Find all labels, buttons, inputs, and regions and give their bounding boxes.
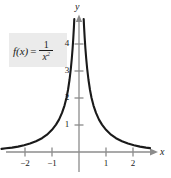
y-axis <box>76 15 82 173</box>
x-axis-label: x <box>160 146 164 157</box>
function-formula-label: f(x) = 1 x2 <box>13 40 53 62</box>
y-tick-label-2: 2 <box>62 92 72 102</box>
formula-equals: = <box>30 46 36 57</box>
curve-right-branch <box>84 19 150 148</box>
y-tick-label-4: 4 <box>62 38 72 48</box>
formula-fraction: 1 x2 <box>39 40 52 62</box>
formula-denominator-exponent: 2 <box>47 51 50 57</box>
function-graph-figure: f(x) = 1 x2 x y −2 −1 1 2 1 2 3 4 <box>0 0 171 178</box>
formula-lhs: f(x) <box>13 46 28 57</box>
x-axis <box>6 149 158 156</box>
formula-numerator: 1 <box>41 40 52 50</box>
y-tick-label-1: 1 <box>62 119 72 129</box>
formula-denominator: x2 <box>39 51 52 62</box>
x-tick-label-1: 1 <box>100 158 112 168</box>
plot-canvas <box>0 0 171 178</box>
y-axis-label: y <box>75 1 79 12</box>
x-tick-label-neg2: −2 <box>17 158 33 168</box>
y-tick-label-3: 3 <box>62 65 72 75</box>
x-tick-label-neg1: −1 <box>44 158 60 168</box>
x-tick-label-2: 2 <box>127 158 139 168</box>
